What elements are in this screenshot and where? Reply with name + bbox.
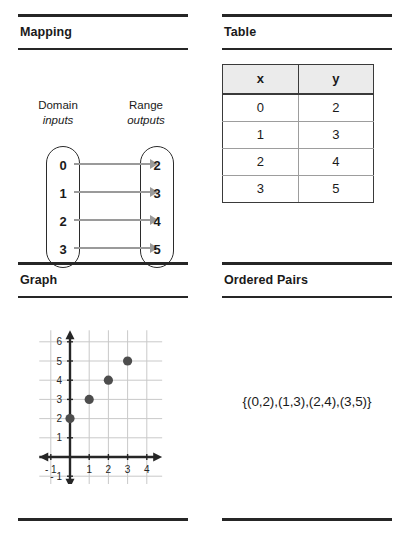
data-points [65, 356, 132, 423]
range-value: 3 [140, 187, 174, 200]
table-row: 3 5 [223, 175, 374, 202]
domain-label: Domain [26, 98, 90, 114]
tick-labels: - 11234- 1123456 [45, 336, 150, 481]
ordered-pairs-set: {(0,2),(1,3),(2,4),(3,5)} [222, 394, 392, 409]
x-tick-label: 3 [125, 464, 131, 475]
data-point [123, 356, 132, 365]
domain-sublabel: inputs [26, 113, 90, 129]
y-tick-label: 2 [56, 413, 62, 424]
cell-y: 2 [298, 94, 374, 122]
footer-rule-left [18, 518, 188, 521]
x-tick-label: 4 [144, 464, 150, 475]
panel-rule-bottom [222, 48, 392, 50]
x-axis-arrow-right [153, 452, 162, 461]
page-title-graph: Graph [18, 265, 188, 296]
xy-table: x y 0 2 1 3 2 4 3 5 [222, 64, 374, 203]
grid-lines [39, 330, 162, 484]
graph-svg: - 11234- 1123456 [18, 304, 188, 484]
column-header-y: y [298, 64, 374, 94]
y-tick-label: 4 [56, 374, 62, 385]
data-point [85, 395, 94, 404]
x-tick-label: 2 [106, 464, 112, 475]
y-tick-label: - 1 [50, 470, 62, 481]
range-header: Range outputs [114, 98, 178, 129]
domain-value: 1 [46, 187, 80, 200]
panel-ordered-pairs: Ordered Pairs {(0,2),(1,3),(2,4),(3,5)} [222, 262, 392, 478]
cell-y: 5 [298, 175, 374, 202]
table-header-row: x y [223, 64, 374, 94]
x-axis-arrow-left [39, 452, 48, 461]
table-row: 0 2 [223, 94, 374, 122]
domain-value: 2 [46, 215, 80, 228]
data-point [65, 414, 74, 423]
panel-table: Table x y 0 2 1 3 2 4 3 5 [222, 14, 392, 203]
x-tick-label: 1 [86, 464, 92, 475]
range-value: 4 [140, 215, 174, 228]
y-tick-label: 5 [56, 355, 62, 366]
page-title-mapping: Mapping [18, 17, 188, 48]
y-axis-arrow-down [66, 478, 75, 483]
cell-x: 2 [223, 148, 299, 175]
y-tick-label: 1 [56, 432, 62, 443]
domain-header: Domain inputs [26, 98, 90, 129]
cell-x: 3 [223, 175, 299, 202]
table-row: 1 3 [223, 121, 374, 148]
range-value: 2 [140, 159, 174, 172]
axes [39, 330, 162, 484]
panel-graph: Graph - 11234- 1123456 [18, 262, 188, 484]
panel-mapping: Mapping Domain inputs Range outputs [18, 14, 188, 225]
range-value: 5 [140, 243, 174, 256]
column-header-x: x [223, 64, 299, 94]
y-tick-label: 6 [56, 336, 62, 347]
mapping-diagram: Domain inputs Range outputs 0 1 2 3 2 [18, 50, 188, 225]
cell-x: 0 [223, 94, 299, 122]
cell-x: 1 [223, 121, 299, 148]
footer-rule-right [222, 518, 392, 521]
page-title-ordered-pairs: Ordered Pairs [222, 265, 392, 296]
data-point [104, 375, 113, 384]
table-row: 2 4 [223, 148, 374, 175]
coordinate-plane: - 11234- 1123456 [18, 304, 188, 484]
ordered-pairs-body: {(0,2),(1,3),(2,4),(3,5)} [222, 298, 392, 478]
cell-y: 3 [298, 121, 374, 148]
page-title-table: Table [222, 17, 392, 48]
range-label: Range [114, 98, 178, 114]
cell-y: 4 [298, 148, 374, 175]
y-axis-arrow-up [66, 330, 75, 339]
domain-value: 0 [46, 159, 80, 172]
domain-value: 3 [46, 243, 80, 256]
panel-rule-bottom [18, 296, 188, 298]
y-tick-label: 3 [56, 394, 62, 405]
range-sublabel: outputs [114, 113, 178, 129]
